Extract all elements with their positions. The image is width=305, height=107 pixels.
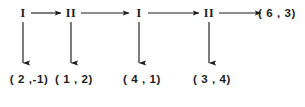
coordinate-label-3: ( 4 , 1) <box>123 74 161 86</box>
node-label-4: II <box>204 7 214 19</box>
final-output-label: ( 6 , 3) <box>258 8 296 20</box>
node-label-2: II <box>66 7 76 19</box>
node-label-1: I <box>20 7 25 19</box>
node-label-3: I <box>136 7 141 19</box>
chain-arrow-diagram: I II I II ( 6 , 3) ( 2 ,-1) ( 1 , 2) ( 4… <box>0 0 305 107</box>
coordinate-label-1: ( 2 ,-1) <box>10 74 49 86</box>
coordinate-label-2: ( 1 , 2) <box>55 74 93 86</box>
vertical-arrow-group <box>23 22 209 63</box>
coordinate-label-4: ( 3 , 4) <box>193 74 231 86</box>
